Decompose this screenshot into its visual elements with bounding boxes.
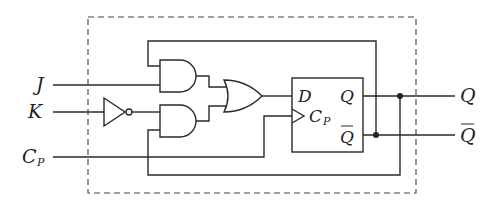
output-label-q: Q — [460, 84, 476, 106]
and-gate-1 — [160, 60, 196, 92]
svg-text:P: P — [36, 156, 45, 169]
junction-qbar — [373, 132, 379, 138]
wire-and1-or — [196, 76, 228, 87]
svg-text:C: C — [22, 145, 37, 167]
input-label-j: J — [32, 73, 45, 95]
pin-label-qbar: Q — [340, 126, 354, 147]
svg-text:P: P — [322, 115, 331, 128]
svg-text:C: C — [309, 106, 322, 126]
pin-label-d: D — [297, 86, 312, 106]
and-gate-2 — [160, 105, 196, 137]
pin-label-q: Q — [340, 86, 354, 106]
junction-q — [397, 93, 403, 99]
wire-and2-or — [196, 106, 228, 121]
svg-text:Q: Q — [340, 127, 354, 147]
input-label-cp: C P — [22, 145, 45, 169]
module-boundary — [88, 17, 416, 193]
not-gate — [104, 98, 125, 126]
inverter-bubble — [126, 109, 132, 115]
output-label-qbar: Q — [460, 124, 476, 146]
svg-text:Q: Q — [460, 124, 476, 146]
jk-flipflop-diagram: J K C P D C P Q Q Q Q — [0, 0, 487, 216]
input-label-k: K — [27, 100, 44, 122]
or-gate — [224, 80, 262, 112]
